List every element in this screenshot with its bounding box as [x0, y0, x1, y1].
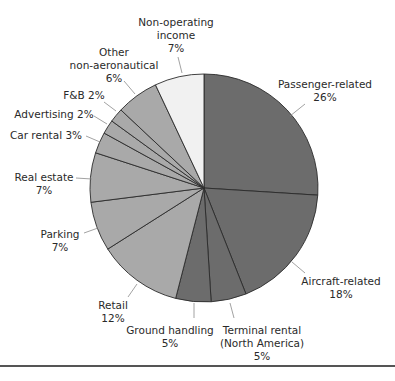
- pie-slices: [90, 74, 318, 302]
- leader-line: [94, 116, 107, 124]
- slice-label: Car rental 3%: [10, 129, 82, 141]
- leader-line: [290, 104, 305, 116]
- slice-label: Parking7%: [41, 228, 80, 253]
- leader-line: [128, 284, 137, 297]
- leader-line: [230, 303, 234, 318]
- leader-line: [292, 262, 305, 273]
- slice-label: Real estate7%: [14, 171, 73, 196]
- leader-line: [84, 228, 98, 233]
- bottom-rule: [0, 365, 395, 367]
- pie-chart: Passenger-related26%Aircraft-related18%T…: [0, 0, 395, 381]
- slice-label: Ground handling5%: [126, 324, 214, 349]
- slice-label: Passenger-related26%: [278, 78, 372, 103]
- leader-line: [124, 81, 135, 94]
- leader-line: [86, 136, 100, 142]
- slice-label: Aircraft-related18%: [301, 275, 380, 300]
- slice-label: Retail12%: [98, 299, 128, 324]
- slice-label: Terminal rental(North America)5%: [220, 324, 304, 362]
- leader-line: [104, 102, 116, 111]
- slice-label: Othernon-aeronautical6%: [70, 46, 159, 84]
- slice-label: Non-operatingincome7%: [138, 16, 214, 54]
- slice-label: Advertising 2%: [14, 108, 93, 120]
- pie-slice-passenger-related: [204, 74, 318, 195]
- leader-line: [76, 178, 92, 179]
- leader-line: [178, 57, 182, 73]
- slice-label: F&B 2%: [63, 89, 104, 101]
